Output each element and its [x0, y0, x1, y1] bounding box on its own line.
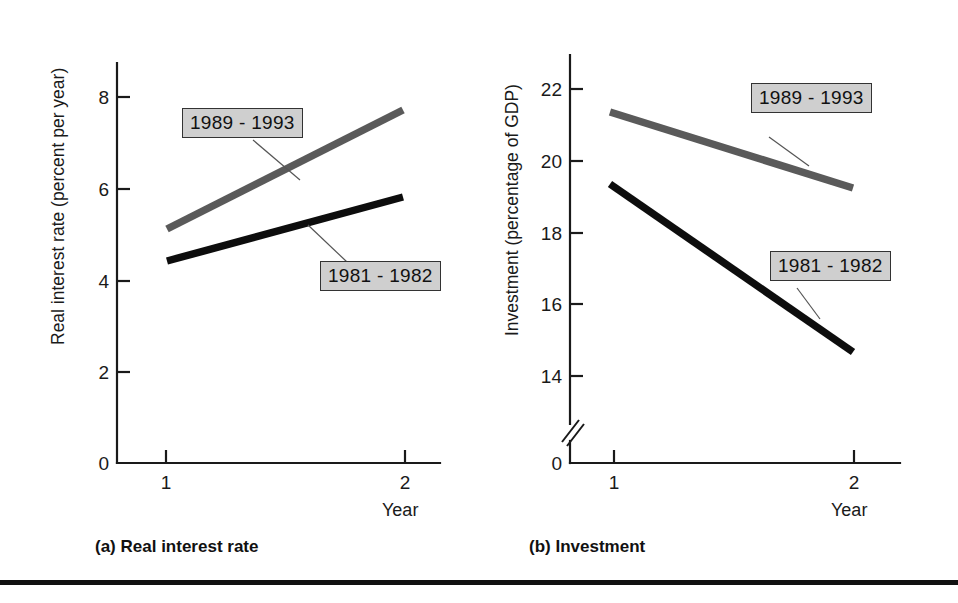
panel-a-ytick-label-6: 6 — [85, 180, 109, 199]
panel-b-investment: 22 20 18 16 14 0 1 2 Year Investment (pe… — [479, 0, 958, 603]
panel-a-series-1981-1982 — [167, 197, 403, 261]
panel-b-ytick-label-14: 14 — [524, 367, 562, 386]
panel-b-ytick-label-16: 16 — [524, 295, 562, 314]
panel-b-x-axis-title: Year — [831, 500, 867, 521]
panel-b-xtick-label-2: 2 — [838, 473, 870, 492]
panel-a-ytick-label-4: 4 — [85, 272, 109, 291]
panel-b-ytick-label-20: 20 — [524, 152, 562, 171]
panel-b-axis-break-icon — [562, 420, 584, 446]
panel-a-ytick-label-8: 8 — [85, 88, 109, 107]
panel-a-ytick-label-2: 2 — [85, 363, 109, 382]
panel-b-series-1989-1993 — [610, 112, 853, 188]
panel-a-xtick-label-2: 2 — [389, 473, 421, 492]
panel-a-x-axis-title: Year — [382, 500, 418, 521]
panel-b-callout-1981-1982: 1981 - 1982 — [770, 251, 891, 281]
bottom-divider-rule — [0, 580, 958, 585]
panel-a-leader-1981-1982 — [308, 225, 347, 262]
panel-a-callout-1989-1993: 1989 - 1993 — [182, 108, 303, 138]
panel-b-caption: (b) Investment — [529, 537, 645, 557]
panel-a-y-axis-title: Real interest rate (percent per year) — [48, 68, 69, 345]
panel-a-xtick-label-1: 1 — [150, 473, 182, 492]
panel-a-real-interest-rate: 8 6 4 2 0 1 2 Year Real interest rate (p… — [0, 0, 479, 603]
panel-b-callout-1989-1993: 1989 - 1993 — [751, 83, 872, 113]
panel-a-caption: (a) Real interest rate — [95, 537, 258, 557]
panel-a-ytick-label-0: 0 — [85, 454, 109, 473]
panel-b-ytick-label-22: 22 — [524, 80, 562, 99]
panel-a-callout-1981-1982: 1981 - 1982 — [320, 261, 441, 291]
panel-b-y-axis-title: Investment (percentage of GDP) — [502, 84, 523, 336]
panel-b-ytick-label-0: 0 — [524, 454, 562, 473]
panel-b-xtick-label-1: 1 — [598, 473, 630, 492]
figure-container: 8 6 4 2 0 1 2 Year Real interest rate (p… — [0, 0, 958, 603]
panel-b-ytick-label-18: 18 — [524, 224, 562, 243]
